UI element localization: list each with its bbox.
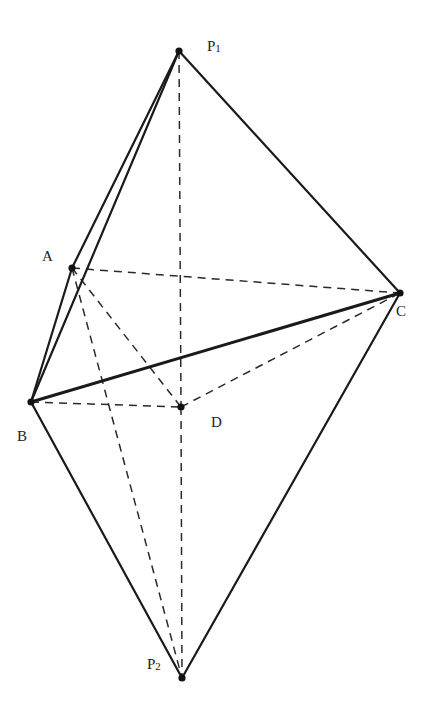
label-a: A <box>42 248 53 264</box>
edge-p1-a <box>72 51 179 268</box>
vertices <box>27 47 403 681</box>
edge-p1-b <box>31 51 179 402</box>
bipyramid-diagram: P1 A B C D P2 <box>0 0 430 718</box>
edge-a-c <box>72 268 400 293</box>
edge-d-p2 <box>181 407 182 678</box>
label-p2: P2 <box>147 656 161 672</box>
edge-a-p2 <box>72 268 182 678</box>
edge-c-p2 <box>182 293 400 678</box>
edge-b-d <box>31 402 181 407</box>
edge-b-p2 <box>31 402 182 678</box>
vertex-c <box>396 289 403 296</box>
vertex-labels: P1 A B C D P2 <box>17 38 406 672</box>
label-b: B <box>17 428 27 444</box>
edge-p1-d <box>179 51 181 407</box>
label-p1: P1 <box>207 38 221 54</box>
vertex-b <box>27 398 34 405</box>
label-d: D <box>211 414 222 430</box>
visible-edges <box>31 51 400 678</box>
vertex-p1 <box>175 47 182 54</box>
hidden-edges <box>31 51 400 678</box>
vertex-a <box>68 264 75 271</box>
vertex-d <box>177 403 184 410</box>
edge-a-b <box>31 268 72 402</box>
edge-b-c <box>31 293 400 402</box>
vertex-p2 <box>178 674 185 681</box>
label-c: C <box>396 303 406 319</box>
edge-p1-c <box>179 51 400 293</box>
